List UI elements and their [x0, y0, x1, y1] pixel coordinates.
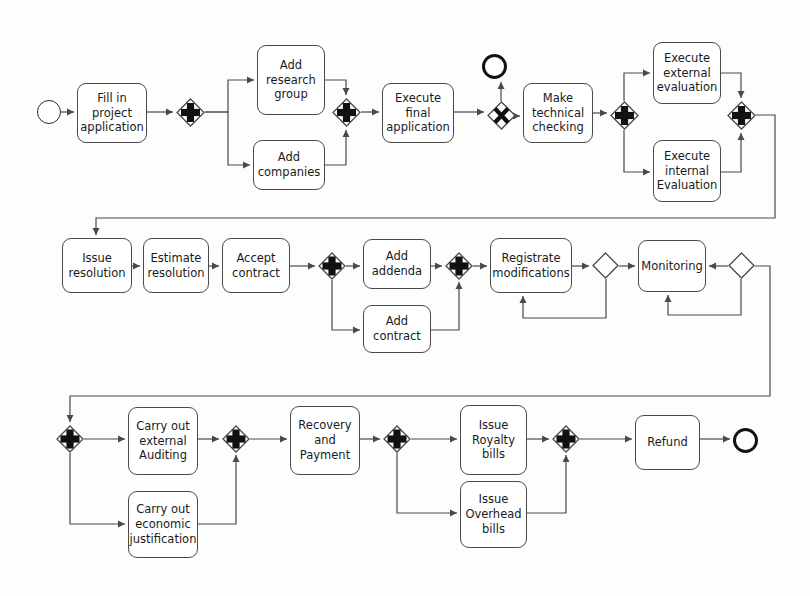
- connector-add-companies-to-gw-join-1: [325, 130, 346, 165]
- parallel-gateway-gw-split-4[interactable]: [56, 425, 84, 453]
- gateway-shape: [332, 98, 361, 127]
- end-event-end-rejected[interactable]: [482, 54, 507, 79]
- exclusive-gateway-gw-xor-1[interactable]: [487, 101, 516, 130]
- connector-gw-split-2-to-execute-external-evaluation: [624, 73, 650, 101]
- task-label: IssueRoyaltybills: [472, 418, 515, 462]
- connector-execute-external-evaluation-to-gw-join-2: [721, 73, 741, 98]
- task-execute-internal-evaluation[interactable]: ExecuteinternalEvaluation: [653, 140, 721, 202]
- connector-issue-overhead-bills-to-gw-join-5: [527, 455, 566, 513]
- task-label: Carry outeconomicjustification: [130, 502, 197, 546]
- parallel-gateway-gw-split-2[interactable]: [610, 101, 639, 130]
- parallel-gateway-gw-join-2[interactable]: [727, 101, 756, 130]
- parallel-gateway-gw-join-5[interactable]: [552, 425, 580, 453]
- parallel-gateway-gw-split-1[interactable]: [176, 98, 205, 127]
- task-refund[interactable]: Refund: [635, 415, 700, 470]
- bpmn-diagram-canvas: Fill inprojectapplicationAddresearchgrou…: [0, 0, 810, 596]
- gateway-shape: [592, 252, 619, 279]
- task-add-contract[interactable]: Addcontract: [363, 305, 431, 353]
- end-event-end-final[interactable]: [733, 428, 758, 453]
- task-carry-out-external-auditing[interactable]: Carry outexternalAuditing: [128, 407, 198, 475]
- task-label: Addcompanies: [258, 150, 320, 179]
- task-label: Executeexternalevaluation: [657, 51, 718, 95]
- task-label: Fill inprojectapplication: [80, 91, 143, 135]
- task-carry-out-economic-justification[interactable]: Carry outeconomicjustification: [128, 491, 198, 558]
- connector-gw-split-1-to-add-research-group: [205, 80, 254, 112]
- gateway-shape: [222, 425, 250, 453]
- gateway-shape: [610, 101, 639, 130]
- task-label: Estimateresolution: [147, 251, 204, 280]
- task-accept-contract[interactable]: Acceptcontract: [222, 238, 290, 293]
- task-label: Registratemodifications: [492, 251, 569, 280]
- task-execute-final-application[interactable]: Executefinalapplication: [382, 83, 454, 143]
- connector-carry-out-economic-justification-to-gw-join-4: [198, 455, 236, 524]
- gateway-shape: [318, 252, 346, 280]
- exclusive-gateway-blank-gw-xor-2[interactable]: [592, 252, 619, 279]
- task-recovery-and-payment[interactable]: RecoveryandPayment: [290, 406, 360, 475]
- task-execute-external-evaluation[interactable]: Executeexternalevaluation: [653, 42, 721, 104]
- gateway-shape: [727, 101, 756, 130]
- task-add-companies[interactable]: Addcompanies: [253, 140, 325, 190]
- task-label: Monitoring: [641, 259, 703, 274]
- parallel-gateway-gw-split-5[interactable]: [383, 425, 411, 453]
- task-label: Acceptcontract: [232, 251, 280, 280]
- gateway-shape: [176, 98, 205, 127]
- parallel-gateway-gw-join-3[interactable]: [445, 252, 473, 280]
- gateway-shape: [552, 425, 580, 453]
- connector-gw-split-1-to-add-companies: [205, 112, 250, 165]
- task-add-research-group[interactable]: Addresearchgroup: [257, 45, 325, 115]
- task-monitoring[interactable]: Monitoring: [638, 240, 706, 292]
- task-label: Addaddenda: [372, 249, 422, 278]
- parallel-gateway-gw-join-4[interactable]: [222, 425, 250, 453]
- parallel-gateway-gw-join-1[interactable]: [332, 98, 361, 127]
- start-event-start[interactable]: [37, 100, 61, 124]
- task-label: Issueresolution: [68, 251, 125, 280]
- task-issue-overhead-bills[interactable]: IssueOverheadbills: [460, 481, 527, 548]
- task-estimate-resolution[interactable]: Estimateresolution: [143, 238, 209, 293]
- task-label: ExecuteinternalEvaluation: [657, 149, 718, 193]
- task-label: Executefinalapplication: [386, 91, 449, 135]
- task-label: Addresearchgroup: [266, 58, 316, 102]
- task-label: Addcontract: [373, 314, 421, 343]
- connector-add-research-group-to-gw-join-1: [325, 80, 346, 95]
- gateway-shape: [728, 252, 755, 279]
- task-label: RecoveryandPayment: [298, 418, 351, 462]
- task-label: IssueOverheadbills: [465, 492, 521, 536]
- connector-gw-split-5-to-issue-overhead-bills: [397, 453, 457, 513]
- gateway-shape: [445, 252, 473, 280]
- gateway-shape: [487, 101, 516, 130]
- connector-gw-split-3-to-add-contract: [332, 280, 360, 330]
- task-add-addenda[interactable]: Addaddenda: [363, 239, 431, 289]
- connector-gw-split-4-to-carry-out-economic-justification: [70, 453, 125, 524]
- connector-add-contract-to-gw-join-3: [431, 282, 459, 330]
- exclusive-gateway-blank-gw-xor-3[interactable]: [728, 252, 755, 279]
- connector-gw-split-2-to-execute-internal-evaluation: [624, 130, 650, 172]
- parallel-gateway-gw-split-3[interactable]: [318, 252, 346, 280]
- task-make-technical-checking[interactable]: Maketechnicalchecking: [523, 83, 593, 143]
- task-label: Carry outexternalAuditing: [136, 419, 190, 463]
- connector-execute-internal-evaluation-to-gw-join-2: [721, 133, 741, 172]
- task-label: Maketechnicalchecking: [532, 91, 584, 135]
- gateway-shape: [383, 425, 411, 453]
- task-label: Refund: [647, 435, 687, 450]
- task-issue-resolution[interactable]: Issueresolution: [62, 238, 132, 293]
- gateway-shape: [56, 425, 84, 453]
- task-fill-in-project-application[interactable]: Fill inprojectapplication: [77, 83, 147, 143]
- task-registrate-modifications[interactable]: Registratemodifications: [490, 238, 572, 293]
- task-issue-royalty-bills[interactable]: IssueRoyaltybills: [460, 405, 527, 475]
